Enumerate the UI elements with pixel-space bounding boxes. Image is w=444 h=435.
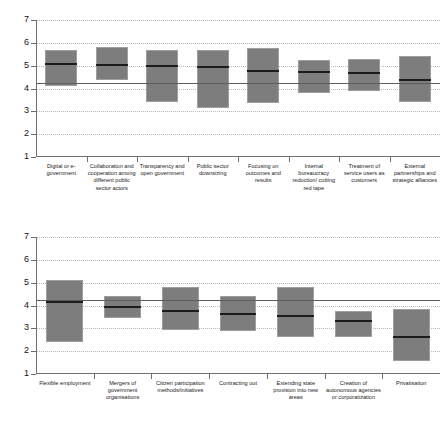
range-box — [46, 280, 83, 342]
y-tick-label-1: 1 — [11, 152, 29, 161]
y-tick-label-1: 1 — [11, 369, 29, 378]
box-group — [238, 20, 289, 157]
y-tick-1 — [31, 374, 36, 375]
x-axis-separator — [325, 374, 326, 379]
x-axis-separator — [238, 157, 239, 162]
box-group — [151, 237, 209, 374]
x-axis-separator — [267, 374, 268, 379]
x-axis-label: Treatment of service users as customers — [339, 163, 390, 215]
box-group — [339, 20, 390, 157]
x-axis-label: Flexible employment — [36, 380, 94, 432]
x-axis-separator — [382, 374, 383, 379]
median-line — [393, 336, 430, 338]
box-group — [325, 237, 383, 374]
range-box — [45, 50, 77, 87]
x-axis-separator — [390, 157, 391, 162]
x-axis-separator — [94, 374, 95, 379]
x-axis-labels-bottom: Flexible employmentMergers of government… — [36, 380, 440, 432]
x-axis-separator — [151, 374, 152, 379]
plot-bottom: 1234567 — [36, 237, 440, 374]
median-line — [348, 72, 380, 74]
x-axis-labels-top: Digital or e-governmentCollaboration and… — [36, 163, 440, 215]
median-line — [146, 65, 178, 67]
x-axis-label: Privatisation — [382, 380, 440, 432]
reference-line — [36, 83, 440, 84]
box-group — [87, 20, 138, 157]
box-series-bottom — [36, 237, 440, 374]
median-line — [45, 63, 77, 65]
x-axis-label: Collaboration and cooperation among diff… — [87, 163, 138, 215]
x-axis-separator — [188, 157, 189, 162]
range-box — [146, 50, 178, 101]
x-axis-separator — [289, 157, 290, 162]
range-box — [197, 50, 229, 108]
x-axis-label: External partnerships and strategic alli… — [390, 163, 441, 215]
median-line — [197, 66, 229, 68]
x-axis-separator — [209, 374, 210, 379]
plot-area-top: 1234567 — [36, 20, 440, 157]
box-series-top — [36, 20, 440, 157]
x-axis-separator — [87, 157, 88, 162]
chart-top: 1234567 Digital or e-governmentCollabora… — [0, 0, 444, 218]
x-axis-label: Focusing on outcomes and results — [238, 163, 289, 215]
box-group — [267, 237, 325, 374]
median-line — [247, 70, 279, 72]
x-axis-label: Extending state provision into new areas — [267, 380, 325, 432]
y-tick-label-5: 5 — [11, 278, 29, 287]
plot-top: 1234567 — [36, 20, 440, 157]
x-axis-label: Digital or e-government — [36, 163, 87, 215]
range-box — [393, 309, 430, 361]
median-line — [96, 64, 128, 66]
x-axis-label: Public sector downsizing — [188, 163, 239, 215]
median-line — [277, 315, 314, 317]
box-group — [137, 20, 188, 157]
y-tick-label-2: 2 — [11, 129, 29, 138]
box-group — [188, 20, 239, 157]
range-box — [277, 287, 314, 338]
y-tick-1 — [31, 157, 36, 158]
x-axis-label: Citizen participation methods/initiative… — [151, 380, 209, 432]
box-group — [36, 237, 94, 374]
box-group — [289, 20, 340, 157]
range-box — [247, 48, 279, 103]
y-tick-label-6: 6 — [11, 255, 29, 264]
box-group — [36, 20, 87, 157]
y-tick-label-3: 3 — [11, 106, 29, 115]
y-tick-label-3: 3 — [11, 323, 29, 332]
range-box — [348, 59, 380, 92]
median-line — [399, 79, 431, 81]
chart-page: 1234567 Digital or e-governmentCollabora… — [0, 0, 444, 435]
box-group — [94, 237, 152, 374]
y-tick-label-4: 4 — [11, 84, 29, 93]
median-line — [298, 71, 330, 73]
y-tick-label-4: 4 — [11, 301, 29, 310]
y-tick-label-2: 2 — [11, 346, 29, 355]
x-axis-label: Creation of autonomous agencies or corpo… — [325, 380, 383, 432]
range-box — [298, 60, 330, 93]
box-group — [209, 237, 267, 374]
y-tick-label-7: 7 — [11, 15, 29, 24]
median-line — [46, 301, 83, 303]
x-axis-label: Contracting out — [209, 380, 267, 432]
median-line — [220, 313, 257, 315]
reference-line — [36, 300, 440, 301]
median-line — [162, 310, 199, 312]
box-group — [382, 237, 440, 374]
x-axis-label: Internal bureaucracy reduction/ cutting … — [289, 163, 340, 215]
y-tick-label-7: 7 — [11, 232, 29, 241]
x-axis-label: Mergers of government organisations — [94, 380, 152, 432]
range-box — [335, 311, 372, 337]
plot-area-bottom: 1234567 — [36, 237, 440, 374]
median-line — [104, 306, 141, 308]
chart-bottom: 1234567 Flexible employmentMergers of go… — [0, 217, 444, 435]
x-axis-separator — [137, 157, 138, 162]
x-axis-separator — [339, 157, 340, 162]
y-tick-label-6: 6 — [11, 38, 29, 47]
y-tick-label-5: 5 — [11, 61, 29, 70]
x-axis-label: Transparency and open government — [137, 163, 188, 215]
median-line — [335, 320, 372, 322]
box-group — [390, 20, 441, 157]
